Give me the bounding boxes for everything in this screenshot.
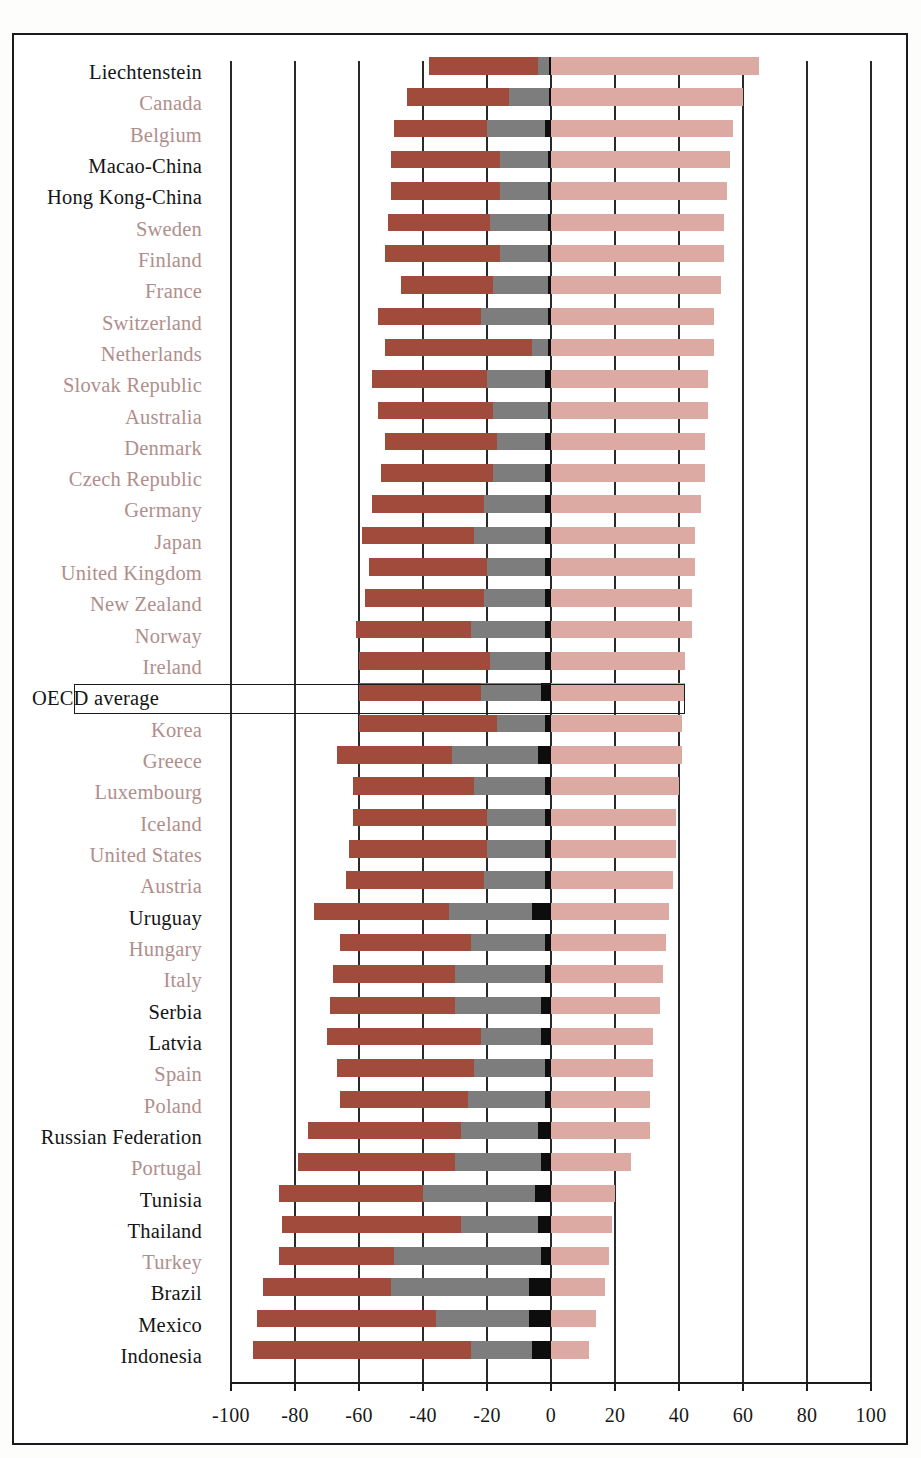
row-label-tunisia: Tunisia [140,1189,202,1211]
bar-segment-gray [455,965,545,983]
bar-segment-dark-red [385,339,532,357]
row-label-switzerland: Switzerland [102,312,202,334]
x-tick-20 [614,1382,616,1391]
chart-row: Brazil [14,1278,910,1309]
chart-row: Serbia [14,997,910,1028]
x-tick-label--60: -60 [329,1404,389,1427]
bar-segment-gray [471,934,545,952]
bar-segment-light-pink [551,997,660,1015]
row-label-macao-china: Macao-China [88,155,202,177]
row-label-united-kingdom: United Kingdom [61,562,202,584]
bar-segment-black [541,1028,551,1046]
bar-segment-dark-red [359,652,490,670]
bar-segment-light-pink [551,308,714,326]
bar-segment-dark-red [279,1247,394,1265]
x-tick-label-0: 0 [521,1404,581,1427]
chart-row: Italy [14,965,910,996]
bar-segment-light-pink [551,934,666,952]
bar-segment-gray [474,527,544,545]
row-label-ireland: Ireland [143,656,202,678]
bar-segment-black [541,1247,551,1265]
chart-row: Czech Republic [14,464,910,495]
bar-segment-black [529,1278,551,1296]
chart-row: Netherlands [14,339,910,370]
bar-segment-gray [481,308,548,326]
bar-segment-light-pink [551,652,685,670]
x-tick-label-60: 60 [713,1404,773,1427]
chart-row: Belgium [14,120,910,151]
bar-segment-dark-red [372,370,487,388]
bar-segment-gray [455,997,541,1015]
bar-segment-light-pink [551,558,695,576]
bar-segment-light-pink [551,777,679,795]
x-tick-80 [806,1382,808,1391]
bar-segment-gray [436,1310,529,1328]
x-tick-label-80: 80 [777,1404,837,1427]
bar-segment-gray [490,214,548,232]
row-label-germany: Germany [124,499,202,521]
row-label-united-states: United States [90,844,203,866]
bar-segment-gray [497,715,545,733]
bar-segment-black [535,1185,551,1203]
bar-segment-black [529,1310,551,1328]
row-label-new-zealand: New Zealand [90,593,202,615]
chart-row: Indonesia [14,1341,910,1372]
bar-segment-dark-red [394,120,487,138]
bar-segment-gray [484,589,545,607]
bar-segment-dark-red [378,402,493,420]
row-label-japan: Japan [154,531,202,553]
bar-segment-dark-red [429,57,538,75]
bar-segment-black [538,1122,551,1140]
row-label-latvia: Latvia [148,1032,202,1054]
x-tick--40 [422,1382,424,1391]
chart-row: Liechtenstein [14,57,910,88]
bar-segment-gray [487,809,545,827]
bar-segment-black [541,997,551,1015]
bar-segment-black [532,903,551,921]
x-tick--100 [230,1382,232,1391]
chart-row: Finland [14,245,910,276]
bar-segment-gray [500,182,548,200]
bar-segment-gray [452,746,538,764]
chart-row: Hungary [14,934,910,965]
row-label-portugal: Portugal [131,1157,202,1179]
bar-segment-dark-red [391,182,500,200]
row-label-iceland: Iceland [140,813,202,835]
bar-segment-light-pink [551,715,682,733]
chart-row: Thailand [14,1216,910,1247]
row-label-hungary: Hungary [129,938,202,960]
bar-segment-dark-red [381,464,493,482]
bar-segment-gray [474,777,544,795]
row-label-serbia: Serbia [148,1001,202,1023]
bar-segment-gray [493,276,547,294]
row-label-korea: Korea [151,719,202,741]
chart-row: United States [14,840,910,871]
bar-segment-dark-red [330,997,455,1015]
chart-row: Luxembourg [14,777,910,808]
chart-row: Sweden [14,214,910,245]
bar-segment-light-pink [551,809,676,827]
row-label-france: France [145,280,202,302]
bar-segment-gray [487,370,545,388]
row-label-thailand: Thailand [128,1220,202,1242]
bar-segment-light-pink [551,245,724,263]
bar-segment-gray [461,1216,538,1234]
bar-segment-dark-red [333,965,455,983]
bar-segment-light-pink [551,214,724,232]
chart-row: Japan [14,527,910,558]
x-tick-label-20: 20 [585,1404,645,1427]
bar-segment-light-pink [551,57,759,75]
bar-segment-dark-red [308,1122,462,1140]
bar-segment-dark-red [282,1216,461,1234]
bar-segment-gray [500,151,548,169]
plot-area: -100-80-60-40-20020406080100Liechtenstei… [14,35,910,1447]
bar-segment-dark-red [279,1185,423,1203]
x-tick-40 [678,1382,680,1391]
x-tick--80 [294,1382,296,1391]
bar-segment-dark-red [253,1341,471,1359]
bar-segment-light-pink [551,840,676,858]
bar-segment-light-pink [551,182,727,200]
bar-segment-dark-red [365,589,483,607]
bar-segment-dark-red [407,88,509,106]
bar-segment-dark-red [346,871,484,889]
